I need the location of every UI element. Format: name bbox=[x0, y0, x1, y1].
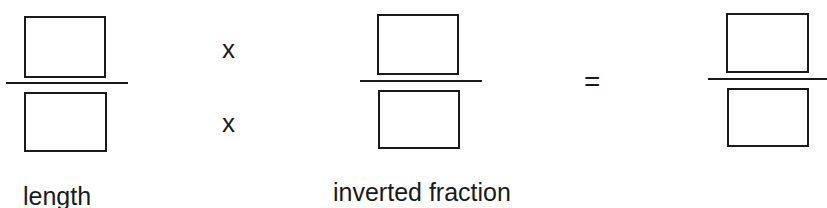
fraction-bar-1 bbox=[6, 82, 128, 84]
label-inverted-fraction: inverted fraction bbox=[333, 180, 511, 205]
fraction-bar-3 bbox=[708, 78, 827, 80]
label-length: length bbox=[23, 184, 91, 208]
denominator-box-1[interactable] bbox=[24, 92, 107, 152]
multiply-sign-top: x bbox=[222, 36, 235, 62]
fraction-bar-2 bbox=[360, 80, 482, 82]
numerator-box-2[interactable] bbox=[377, 14, 459, 75]
denominator-box-2[interactable] bbox=[378, 90, 460, 149]
multiply-sign-bottom: x bbox=[222, 110, 235, 136]
numerator-box-3[interactable] bbox=[726, 13, 809, 73]
equals-sign: = bbox=[584, 68, 600, 96]
denominator-box-3[interactable] bbox=[727, 88, 809, 147]
numerator-box-1[interactable] bbox=[24, 16, 106, 78]
